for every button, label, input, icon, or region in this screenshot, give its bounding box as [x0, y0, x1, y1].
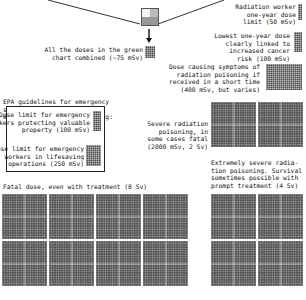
epa-lifesaving-block: [86, 145, 101, 166]
lowest-cancer-block: [294, 32, 302, 52]
green-chart-thumbnail: [141, 8, 159, 26]
extremely-severe-label: Extremely severe radia- tion poisoning. …: [211, 159, 302, 189]
arrow-down-icon: [146, 28, 152, 42]
poisoning-symptoms-label: Dose causing symptoms of radiation poiso…: [169, 63, 260, 93]
severe-poisoning-label: Severe radiation poisoning, in some case…: [147, 120, 208, 150]
radiation-worker-label: Radiation worker one-year dose limit (50…: [235, 3, 296, 26]
radiation-worker-block: [298, 4, 302, 20]
green-combined-label: All the doses in the green chart combine…: [44, 46, 143, 61]
epa-property-label: Dose limit for emergency workers protect…: [0, 111, 90, 134]
fatal-dose-block: [2, 194, 190, 288]
lowest-cancer-label: Lowest one-year dose clearly linked to i…: [214, 32, 290, 62]
severe-poisoning-block: [211, 102, 305, 149]
epa-lifesaving-label: Dose limit for emergency workers in life…: [0, 145, 84, 168]
poisoning-symptoms-block: [266, 64, 302, 90]
epa-box: Dose limit for emergency workers protect…: [6, 106, 105, 172]
green-combined-block: [145, 46, 155, 58]
extremely-severe-block: [211, 194, 305, 288]
epa-property-block: [93, 111, 101, 131]
fatal-dose-label: Fatal dose, even with treatment (8 Sv): [3, 183, 147, 191]
